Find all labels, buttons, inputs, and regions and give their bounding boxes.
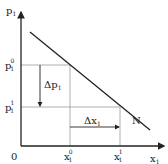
y-axis-label: p1 — [6, 5, 16, 17]
price-level-1-label: p11 — [5, 99, 14, 114]
price-level-0-label: p01 — [5, 57, 14, 72]
curve-label: N — [132, 115, 141, 126]
delta-x-label: Δx1 — [84, 115, 101, 127]
demand-diagram: p1 x1 0 N p01 p11 x01 x11 Δp1 Δx1 — [0, 0, 168, 164]
quantity-level-0-label: x01 — [64, 148, 73, 163]
x-axis-label: x1 — [150, 153, 159, 164]
quantity-level-1-label: x11 — [114, 148, 122, 163]
origin-label: 0 — [11, 151, 17, 162]
delta-p-label: Δp1 — [44, 79, 61, 91]
guide-lines — [21, 65, 120, 146]
